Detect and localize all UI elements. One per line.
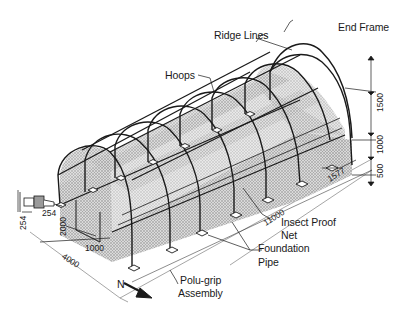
dim-arch-height: 1500 xyxy=(376,93,385,112)
dim-wall-height: 1000 xyxy=(376,135,385,154)
label-ridge-lines: Ridge Lines xyxy=(214,29,268,41)
dim-door-height: 2000 xyxy=(59,217,68,236)
net-house-diagram xyxy=(0,0,402,321)
label-insect-proof-net-2: Net xyxy=(281,229,297,241)
dim-pump-width: 254 xyxy=(42,209,56,218)
north-arrow-icon xyxy=(124,283,152,298)
dim-pump-height: 254 xyxy=(19,216,28,230)
label-polu-grip-1: Polu-grip xyxy=(180,274,221,286)
dim-door-width: 1000 xyxy=(85,244,104,253)
dim-foundation-depth: 500 xyxy=(376,164,385,178)
label-north: N xyxy=(117,278,124,290)
label-hoops: Hoops xyxy=(165,69,195,81)
label-foundation-pipe-2: Pipe xyxy=(258,256,279,268)
label-insect-proof-net-1: Insect Proof xyxy=(281,216,336,228)
label-foundation-pipe-1: Foundation xyxy=(258,242,310,254)
label-end-frame: End Frame xyxy=(338,21,389,33)
label-polu-grip-2: Assembly xyxy=(178,287,223,299)
